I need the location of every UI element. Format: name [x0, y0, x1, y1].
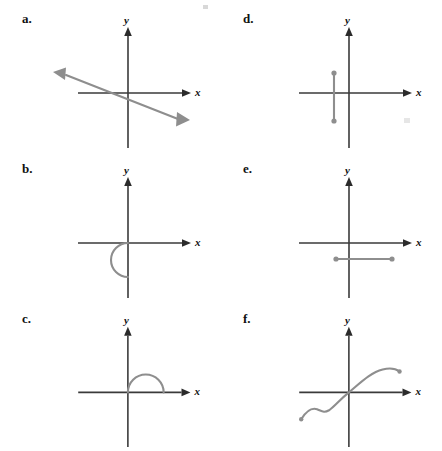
coordinate-plane-c: x y — [0, 300, 221, 450]
curve-endpoint-left — [299, 417, 303, 421]
graph-semicircle-b — [111, 243, 128, 277]
y-axis-label: y — [122, 14, 129, 26]
segment-endpoint-top — [331, 70, 336, 75]
coordinate-plane-d: x y — [221, 0, 442, 150]
panel-b: b. x y — [0, 150, 221, 300]
x-axis-label: x — [194, 236, 201, 248]
y-axis-label: y — [122, 164, 129, 176]
y-axis-arrowhead — [124, 327, 132, 336]
panel-d: d. x y — [221, 0, 442, 150]
y-axis-arrowhead — [124, 27, 132, 36]
graph-semicircle-c — [128, 375, 164, 393]
x-axis-label: x — [193, 385, 200, 397]
x-axis-arrowhead — [182, 389, 191, 397]
x-axis-arrowhead — [182, 89, 191, 97]
scan-artifact-right — [404, 118, 410, 123]
panel-e: e. x y — [221, 150, 442, 300]
y-axis-label: y — [343, 314, 350, 326]
y-axis-arrowhead — [345, 27, 353, 36]
figure-sheet: a. x y d. x y b. — [0, 0, 442, 451]
coordinate-plane-e: x y — [221, 150, 442, 300]
panel-c: c. x y — [0, 300, 221, 450]
graph-line-a — [66, 75, 178, 119]
y-axis-label: y — [122, 314, 129, 326]
segment-endpoint-right — [389, 256, 394, 261]
coordinate-plane-a: x y — [0, 0, 221, 150]
y-axis-label: y — [343, 164, 350, 176]
x-axis-label: x — [415, 236, 422, 248]
y-axis-arrowhead — [345, 177, 353, 186]
x-axis-label: x — [194, 86, 201, 98]
y-axis-label: y — [343, 14, 350, 26]
x-axis-label: x — [414, 385, 421, 397]
x-axis-arrowhead — [403, 239, 412, 247]
graph-wavy-curve-f — [301, 369, 399, 420]
y-axis-arrowhead — [124, 177, 132, 186]
x-axis-arrowhead — [403, 89, 412, 97]
x-axis-label: x — [415, 86, 422, 98]
graph-line-arrow-end — [176, 112, 190, 127]
scan-artifact-top — [203, 5, 208, 9]
x-axis-arrowhead — [182, 239, 191, 247]
x-axis-arrowhead — [403, 389, 412, 397]
segment-endpoint-left — [333, 256, 338, 261]
curve-endpoint-right — [397, 369, 401, 373]
segment-endpoint-bottom — [331, 118, 336, 123]
panel-f: f. x y — [221, 300, 442, 450]
y-axis-arrowhead — [345, 327, 353, 336]
panel-a: a. x y — [0, 0, 221, 150]
coordinate-plane-f: x y — [221, 300, 442, 450]
graph-line-arrow-start — [53, 68, 66, 81]
coordinate-plane-b: x y — [0, 150, 221, 300]
